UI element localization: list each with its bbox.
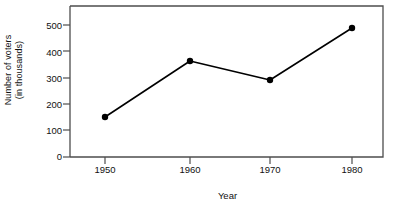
x-axis-title: Year — [0, 190, 399, 201]
x-tick-label-1970: 1970 — [250, 164, 290, 175]
x-tick-label-1960: 1960 — [170, 164, 210, 175]
x-axis-ticks — [105, 157, 352, 164]
axis-frame — [70, 6, 383, 157]
y-axis-ticks — [63, 25, 70, 157]
x-axis-title-text: Year — [218, 190, 237, 201]
x-tick-label-1950: 1950 — [85, 164, 125, 175]
x-axis-tick-labels: 1950 1960 1970 1980 — [0, 164, 399, 180]
data-series-voters — [102, 25, 355, 120]
x-tick-label-1980: 1980 — [332, 164, 372, 175]
line-chart-figure: Number of voters (in thousands) 500 400 … — [0, 0, 399, 208]
data-point-1970 — [267, 77, 273, 83]
data-point-1980 — [349, 25, 355, 31]
data-point-1950 — [102, 114, 108, 120]
data-point-1960 — [187, 58, 193, 64]
